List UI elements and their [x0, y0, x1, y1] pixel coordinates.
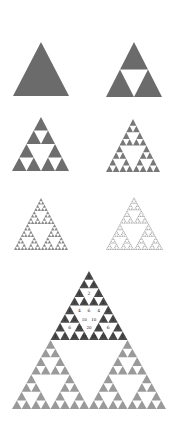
triangle-cell: [133, 126, 140, 133]
triangle-cell: [58, 234, 61, 237]
pascal-number: 6: [68, 325, 71, 330]
triangle-cell: [149, 247, 151, 249]
triangle-cell: [41, 247, 44, 250]
triangle-cell: [127, 242, 129, 244]
triangle-cell: [22, 244, 25, 247]
triangle-cell: [136, 202, 138, 204]
triangle-cell: [106, 248, 108, 250]
sierpinski-iterations: [12, 42, 163, 250]
triangle-cell: [136, 205, 138, 207]
triangle-cell: [49, 218, 52, 221]
pascal-odd-cell: [147, 383, 157, 392]
pascal-number: 15: [77, 325, 83, 330]
triangle-cell: [139, 238, 141, 240]
triangle-cell: [29, 218, 32, 221]
triangle-cell: [139, 207, 141, 209]
triangle-cell: [148, 224, 150, 226]
pascal-odd-cell: [156, 400, 166, 409]
triangle-cell: [131, 245, 133, 247]
sierpinski-iteration-2: [12, 117, 69, 171]
pascal-odd-cell: [79, 400, 89, 409]
triangle-cell: [139, 215, 141, 217]
triangle-cell: [122, 222, 124, 224]
triangle-cell: [138, 209, 140, 211]
pascal-number: 1: [121, 334, 124, 339]
triangle-cell: [115, 232, 117, 234]
triangle-cell: [124, 233, 126, 235]
triangle-cell: [154, 242, 156, 244]
triangle-cell: [134, 248, 136, 250]
triangle-cell: [107, 247, 109, 249]
triangle-cell: [135, 247, 137, 249]
triangle-cell: [118, 248, 120, 250]
triangle-cell: [48, 221, 51, 224]
triangle-cell: [27, 158, 42, 172]
triangle-cell: [29, 231, 32, 234]
pascal-odd-cell: [31, 383, 41, 392]
triangle-cell: [140, 237, 142, 239]
sierpinski-iteration-4: [14, 198, 68, 250]
triangle-cell: [124, 219, 126, 221]
triangle-cell: [158, 248, 160, 250]
triangle-cell: [139, 220, 141, 222]
triangle-cell: [131, 205, 133, 207]
pascal-number: 1: [112, 317, 115, 322]
triangle-cell: [29, 244, 32, 247]
triangle-cell: [136, 132, 143, 139]
triangle-cell: [150, 245, 152, 247]
triangle-cell: [55, 227, 58, 230]
triangle-cell: [106, 165, 113, 172]
triangle-cell: [141, 248, 143, 250]
triangle-cell: [106, 70, 134, 98]
pascal-odd-cell: [152, 392, 162, 401]
triangle-cell: [149, 228, 151, 230]
triangle-cell: [129, 222, 131, 224]
triangle-cell: [125, 212, 127, 214]
pascal-odd-cell: [123, 340, 133, 349]
triangle-cell: [139, 209, 141, 211]
triangle-cell: [48, 234, 51, 237]
pascal-number: 3: [92, 300, 95, 305]
triangle-cell: [146, 227, 148, 229]
triangle-cell: [135, 200, 137, 202]
triangle-cell: [138, 245, 140, 247]
triangle-cell: [143, 215, 145, 217]
triangle-cell: [147, 235, 149, 237]
triangle-cell: [122, 219, 124, 221]
triangle-cell: [160, 247, 162, 249]
triangle-cell: [125, 248, 127, 250]
triangle-cell: [151, 243, 153, 245]
triangle-cell: [130, 119, 137, 126]
triangle-cell: [145, 228, 147, 230]
pascal-odd-cell: [70, 383, 80, 392]
triangle-cell: [131, 247, 133, 249]
pascal-number: 1: [59, 325, 62, 330]
triangle-cell: [134, 70, 162, 98]
triangle-cell: [16, 244, 19, 247]
triangle-cell: [56, 231, 59, 234]
triangle-cell: [127, 215, 129, 217]
triangle-cell: [61, 240, 64, 243]
triangle-cell: [144, 243, 146, 245]
triangle-cell: [147, 225, 149, 227]
triangle-cell: [147, 248, 149, 250]
triangle-cell: [124, 247, 126, 249]
pascal-odd-cell: [22, 383, 32, 392]
triangle-cell: [31, 221, 34, 224]
pascal-odd-cell: [118, 349, 128, 358]
triangle-cell: [117, 245, 119, 247]
triangle-cell: [115, 242, 117, 244]
triangle-cell: [134, 199, 136, 201]
triangle-cell: [110, 245, 112, 247]
triangle-cell: [13, 42, 69, 96]
triangle-cell: [123, 159, 130, 166]
triangle-cell: [19, 237, 22, 240]
triangle-cell: [124, 235, 126, 237]
triangle-cell: [120, 235, 122, 237]
triangle-cell: [139, 242, 141, 244]
triangle-cell: [129, 242, 131, 244]
triangle-cell: [117, 235, 119, 237]
triangle-cell: [149, 248, 151, 250]
triangle-cell: [41, 158, 55, 172]
triangle-cell: [146, 233, 148, 235]
